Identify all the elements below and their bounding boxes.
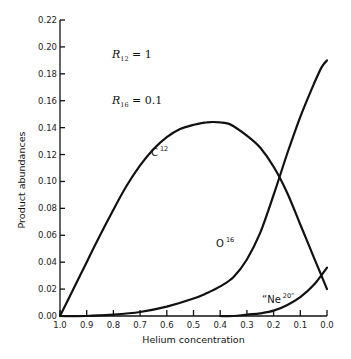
x-tick-label: 0.3 bbox=[240, 320, 254, 330]
x-tick-label: 0.9 bbox=[80, 320, 94, 330]
x-tick-label: 0.1 bbox=[294, 320, 308, 330]
y-tick-label: 0.14 bbox=[38, 123, 57, 133]
label-c12-superscript: 12 bbox=[160, 145, 168, 153]
y-tick-label: 0.22 bbox=[38, 15, 57, 25]
label-ne20-superscript: 20” bbox=[283, 292, 295, 300]
param-value: = 0.1 bbox=[129, 94, 163, 107]
param-subscript: 12 bbox=[120, 55, 128, 63]
label-c12: C12 bbox=[151, 145, 168, 158]
param-symbol: R bbox=[111, 94, 120, 107]
x-axis-label: Helium concentration bbox=[142, 334, 244, 345]
label-c12-text: C bbox=[151, 147, 158, 158]
x-tick-label: 0.7 bbox=[133, 320, 147, 330]
y-axis-label: Product abundances bbox=[16, 132, 27, 229]
y-tick-label: 0.18 bbox=[38, 69, 57, 79]
parameter-annotation: R16 = 0.1 bbox=[111, 94, 162, 109]
curve-o16 bbox=[60, 60, 327, 316]
x-tick-label: 0.8 bbox=[107, 320, 121, 330]
y-tick-label: 0.06 bbox=[38, 230, 57, 240]
curves bbox=[60, 60, 327, 316]
label-o16: O16 bbox=[216, 236, 234, 249]
label-o16-text: O bbox=[216, 238, 224, 249]
label-o16-superscript: 16 bbox=[226, 236, 234, 244]
chart: 0.000.020.040.060.080.100.120.140.160.18… bbox=[0, 0, 351, 359]
y-tick-label: 0.08 bbox=[38, 203, 57, 213]
y-tick-label: 0.10 bbox=[38, 176, 57, 186]
y-tick-label: 0.02 bbox=[38, 284, 57, 294]
param-value: = 1 bbox=[129, 48, 152, 61]
y-tick-label: 0.20 bbox=[38, 42, 57, 52]
label-ne20-text: “Ne bbox=[262, 294, 281, 305]
x-tick-label: 0.0 bbox=[320, 320, 334, 330]
y-tick-label: 0.12 bbox=[38, 150, 57, 160]
x-tick-label: 0.2 bbox=[267, 320, 281, 330]
x-tick-label: 0.5 bbox=[187, 320, 201, 330]
y-tick-label: 0.04 bbox=[38, 257, 57, 267]
x-tick-label: 1.0 bbox=[53, 320, 67, 330]
y-tick-label: 0.16 bbox=[38, 96, 57, 106]
parameter-annotation: R12 = 1 bbox=[111, 48, 152, 63]
param-subscript: 16 bbox=[120, 101, 128, 109]
labels: C12O16“Ne20”R12 = 1R16 = 0.1 bbox=[111, 48, 294, 305]
param-symbol: R bbox=[111, 48, 120, 61]
x-tick-label: 0.4 bbox=[213, 320, 227, 330]
x-tick-label: 0.6 bbox=[160, 320, 174, 330]
